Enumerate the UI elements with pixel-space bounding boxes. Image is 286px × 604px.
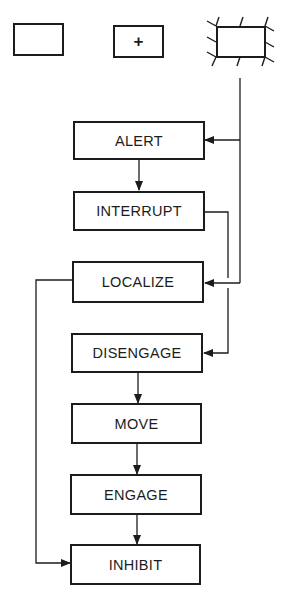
node-engage: ENGAGE <box>70 474 202 515</box>
node-alert: ALERT <box>73 121 205 160</box>
plain-box-symbol <box>13 23 64 56</box>
plus-box-symbol: + <box>113 25 164 58</box>
node-inhibit: INHIBIT <box>70 544 201 585</box>
node-localize: LOCALIZE <box>72 261 204 303</box>
node-interrupt: INTERRUPT <box>73 191 205 231</box>
hatched-box-symbol <box>216 26 266 58</box>
node-move: MOVE <box>71 403 202 444</box>
diagram-canvas: + ALERT INTERRUPT LOCALIZE DISENGAGE MOV… <box>0 0 286 604</box>
node-disengage: DISENGAGE <box>71 333 203 373</box>
